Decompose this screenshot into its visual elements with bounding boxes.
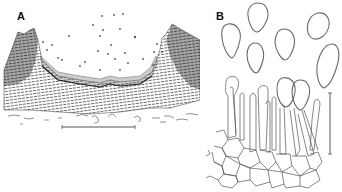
scattered-spores (42, 13, 163, 71)
panel-b: B (200, 0, 342, 192)
cup-section-illustration (0, 0, 200, 192)
spores-and-cells-illustration (200, 0, 342, 192)
paraphyses-and-cells (206, 76, 322, 188)
substrate-debris (8, 114, 198, 124)
panel-a: A (0, 0, 200, 192)
ascospores (222, 3, 339, 110)
